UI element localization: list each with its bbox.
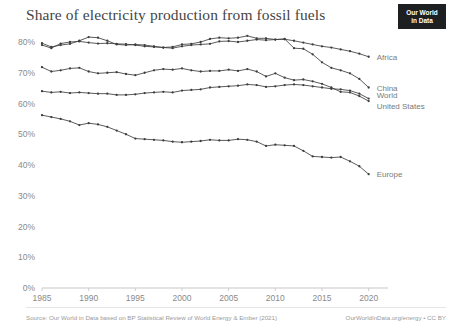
data-point [237, 85, 239, 87]
data-point [358, 95, 360, 97]
data-point [368, 100, 370, 102]
data-point [293, 145, 295, 147]
data-point [368, 173, 370, 175]
data-point [190, 69, 192, 71]
data-point [106, 126, 108, 128]
data-point [284, 38, 286, 40]
data-point [321, 45, 323, 47]
data-point [209, 86, 211, 88]
series-line-africa [42, 39, 369, 57]
data-point [256, 70, 258, 72]
data-point [134, 74, 136, 76]
data-point [209, 43, 211, 45]
data-point [330, 156, 332, 158]
data-point [256, 140, 258, 142]
chart-footer: Source: Our World in Data based on BP St… [26, 314, 446, 321]
data-point [218, 139, 220, 141]
data-point [97, 37, 99, 39]
data-point [209, 139, 211, 141]
data-point [228, 37, 230, 39]
data-point [312, 53, 314, 55]
data-point [237, 41, 239, 43]
plot-area: 0%10%20%30%40%50%60%70%80%19851990199520… [0, 0, 450, 327]
data-point [125, 44, 127, 46]
data-point [246, 40, 248, 42]
data-point [274, 38, 276, 40]
data-point [200, 43, 202, 45]
line-chart-svg: 0%10%20%30%40%50%60%70%80%19851990199520… [0, 0, 450, 327]
data-point [358, 165, 360, 167]
data-point [218, 70, 220, 72]
data-point [274, 144, 276, 146]
data-point [228, 139, 230, 141]
data-point [256, 37, 258, 39]
data-point [284, 84, 286, 86]
data-point [116, 71, 118, 73]
data-point [60, 91, 62, 93]
data-point [144, 72, 146, 74]
data-point [181, 43, 183, 45]
data-point [330, 86, 332, 88]
data-point [340, 48, 342, 50]
data-point [50, 46, 52, 48]
data-point [162, 68, 164, 70]
x-axis-tick-label: 2020 [359, 293, 378, 303]
y-axis-tick-label: 80% [18, 37, 35, 47]
y-axis-tick-label: 70% [18, 68, 35, 78]
data-point [358, 53, 360, 55]
data-point [265, 75, 267, 77]
series-label-united-states[interactable]: United States [377, 102, 425, 111]
y-axis-tick-label: 20% [18, 222, 35, 232]
data-point [265, 86, 267, 88]
x-axis-tick-label: 1995 [126, 293, 145, 303]
y-axis-tick-label: 10% [18, 252, 35, 262]
data-point [88, 36, 90, 38]
data-point [209, 38, 211, 40]
data-point [349, 91, 351, 93]
data-point [218, 37, 220, 39]
data-point [237, 37, 239, 39]
data-point [293, 40, 295, 42]
data-point [228, 40, 230, 42]
data-point [209, 70, 211, 72]
attribution-note[interactable]: OurWorldInData.org/energy • CC BY [346, 314, 446, 321]
y-axis-tick-label: 0% [23, 283, 36, 293]
data-point [41, 66, 43, 68]
data-point [172, 140, 174, 142]
y-axis-tick-label: 30% [18, 191, 35, 201]
series-label-europe[interactable]: Europe [377, 170, 403, 179]
data-point [153, 45, 155, 47]
data-point [312, 85, 314, 87]
data-point [181, 89, 183, 91]
data-point [144, 138, 146, 140]
series-label-africa[interactable]: Africa [377, 53, 398, 62]
data-point [228, 85, 230, 87]
data-point [88, 122, 90, 124]
data-point [274, 72, 276, 74]
data-point [358, 78, 360, 80]
x-axis-tick-label: 2005 [219, 293, 238, 303]
data-point [246, 35, 248, 37]
data-point [172, 69, 174, 71]
data-point [349, 72, 351, 74]
source-note: Source: Our World in Data based on BP St… [26, 314, 277, 321]
series-label-world[interactable]: World [377, 91, 398, 100]
data-point [50, 116, 52, 118]
data-point [134, 137, 136, 139]
data-point [88, 70, 90, 72]
data-point [106, 40, 108, 42]
data-point [69, 43, 71, 45]
data-point [125, 94, 127, 96]
data-point [368, 97, 370, 99]
data-point [181, 67, 183, 69]
data-point [321, 83, 323, 85]
data-point [60, 118, 62, 120]
data-point [312, 43, 314, 45]
data-point [340, 91, 342, 93]
data-point [153, 91, 155, 93]
series-line-china [42, 36, 369, 88]
data-point [190, 140, 192, 142]
data-point [200, 140, 202, 142]
data-point [50, 91, 52, 93]
data-point [88, 41, 90, 43]
